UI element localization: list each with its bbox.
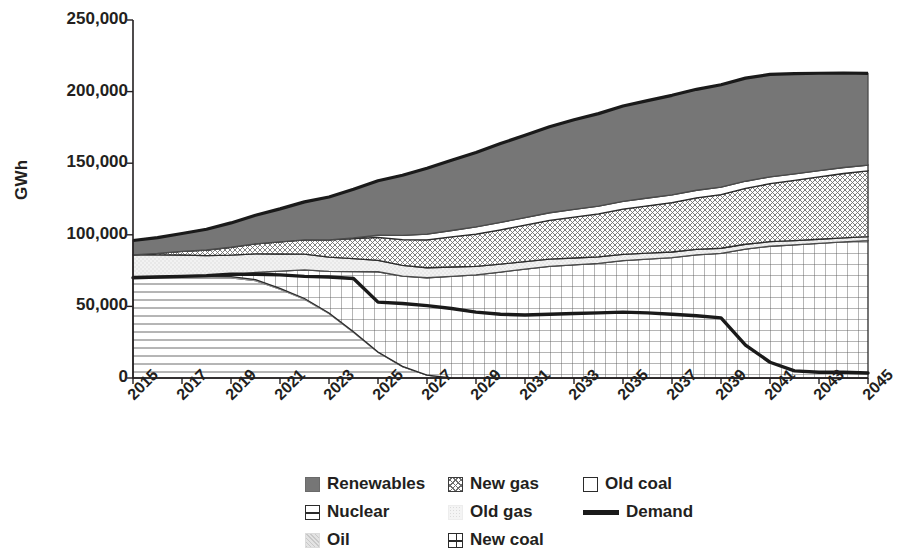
legend-label: Old coal: [605, 474, 672, 494]
x-axis-tick-label: 2015: [124, 366, 162, 404]
legend-label: Renewables: [327, 474, 425, 494]
legend-item-nuclear[interactable]: Nuclear: [305, 502, 448, 522]
x-axis-tick-label: 2041: [761, 366, 799, 404]
chart-legend: RenewablesNew gasOld coalNuclearOld gasD…: [305, 470, 725, 554]
legend-item-new-gas[interactable]: New gas: [448, 474, 583, 494]
x-axis-tick-label: 2021: [271, 366, 309, 404]
renewables-swatch: [305, 477, 320, 492]
x-axis-tick-label: 2031: [516, 366, 554, 404]
legend-row: RenewablesNew gasOld coal: [305, 470, 725, 498]
legend-label: Nuclear: [327, 502, 389, 522]
legend-item-new-coal[interactable]: New coal: [448, 530, 583, 550]
legend-item-renewables[interactable]: Renewables: [305, 474, 448, 494]
legend-label: Oil: [327, 530, 350, 550]
x-axis-tick-label: 2043: [810, 366, 848, 404]
old-gas-swatch: [448, 505, 463, 520]
new-gas-swatch: [448, 477, 463, 492]
demand-line-swatch: [583, 510, 619, 515]
legend-label: New coal: [470, 530, 544, 550]
x-axis-tick-label: 2025: [369, 366, 407, 404]
oil-swatch: [305, 533, 320, 548]
legend-item-oil[interactable]: Oil: [305, 530, 448, 550]
x-axis-tick-label: 2045: [859, 366, 897, 404]
x-axis-tick-label: 2037: [663, 366, 701, 404]
x-axis-tick-label: 2023: [320, 366, 358, 404]
x-axis-tick-label: 2017: [173, 366, 211, 404]
legend-item-old-coal[interactable]: Old coal: [583, 474, 672, 494]
x-axis-tick-label: 2033: [565, 366, 603, 404]
x-axis-tick-label: 2019: [222, 366, 260, 404]
legend-label: Demand: [626, 502, 693, 522]
legend-row: OilNew coal: [305, 526, 725, 554]
x-axis-tick-label: 2035: [614, 366, 652, 404]
legend-item-demand[interactable]: Demand: [583, 502, 693, 522]
new-coal-swatch: [448, 533, 463, 548]
x-axis-tick-labels: 2015201720192021202320252027202920312033…: [0, 0, 872, 460]
x-axis-tick-label: 2029: [467, 366, 505, 404]
x-axis-tick-label: 2027: [418, 366, 456, 404]
nuclear-swatch: [305, 505, 320, 520]
legend-label: New gas: [470, 474, 539, 494]
legend-row: NuclearOld gasDemand: [305, 498, 725, 526]
old-coal-swatch: [583, 477, 598, 492]
legend-item-old-gas[interactable]: Old gas: [448, 502, 583, 522]
legend-label: Old gas: [470, 502, 532, 522]
x-axis-tick-label: 2039: [712, 366, 750, 404]
